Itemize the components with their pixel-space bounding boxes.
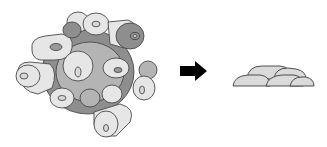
diagram-canvas bbox=[0, 0, 327, 147]
transition-arrow-icon bbox=[180, 61, 207, 81]
flattened-cell-layer bbox=[233, 66, 314, 86]
cell-aggregate bbox=[16, 12, 157, 137]
